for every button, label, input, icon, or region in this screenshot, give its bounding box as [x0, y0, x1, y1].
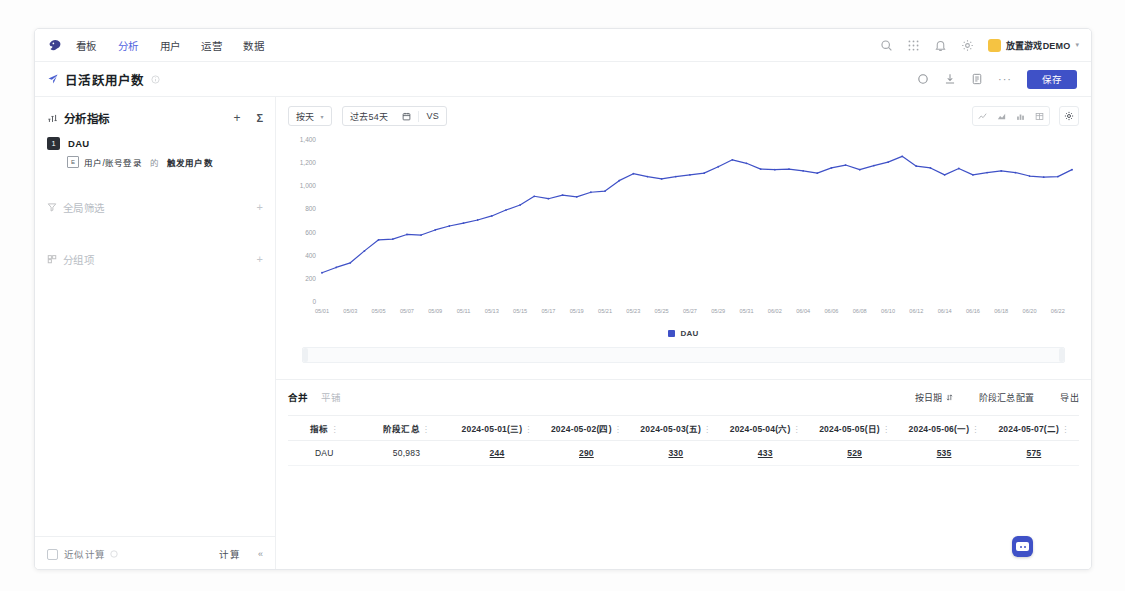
vs-compare-button[interactable]: VS — [419, 107, 446, 125]
apps-grid-icon[interactable] — [907, 39, 920, 52]
chart-data-point[interactable] — [731, 159, 733, 161]
chart-data-point[interactable] — [632, 173, 634, 175]
chart-data-point[interactable] — [349, 262, 351, 264]
cell-value-5[interactable]: 535 — [899, 441, 988, 466]
col-date-6[interactable]: 2024-05-07(二)⋮ — [989, 416, 1079, 441]
bell-icon[interactable] — [934, 39, 947, 52]
sort-handle-icon[interactable]: ⋮ — [793, 425, 801, 434]
chart-data-point[interactable] — [788, 168, 790, 170]
sum-metric-button[interactable]: Σ — [256, 113, 263, 124]
global-filter-section[interactable]: 全局筛选 + — [35, 194, 275, 220]
calculate-button[interactable]: 计算 — [219, 547, 240, 561]
chart-data-point[interactable] — [463, 222, 465, 224]
cell-value-4[interactable]: 529 — [810, 441, 899, 466]
chart-data-point[interactable] — [703, 172, 705, 174]
chart-data-point[interactable] — [519, 204, 521, 206]
refresh-icon[interactable] — [917, 73, 929, 85]
sort-by-date-button[interactable]: 按日期 — [915, 391, 953, 404]
chart-data-point[interactable] — [590, 191, 592, 193]
col-date-0[interactable]: 2024-05-01(三)⋮ — [452, 416, 541, 441]
chart-data-point[interactable] — [434, 229, 436, 231]
more-actions-icon[interactable]: ··· — [998, 75, 1012, 83]
chart-data-point[interactable] — [448, 225, 450, 227]
chart-data-point[interactable] — [944, 174, 946, 176]
add-grouping-button[interactable]: + — [257, 254, 263, 265]
chart-data-point[interactable] — [505, 209, 507, 211]
chart-data-point[interactable] — [802, 170, 804, 172]
chart-data-point[interactable] — [420, 234, 422, 236]
chart-data-point[interactable] — [406, 234, 408, 236]
chart-data-point[interactable] — [661, 178, 663, 180]
chart-data-point[interactable] — [378, 239, 380, 241]
sort-handle-icon[interactable]: ⋮ — [971, 425, 979, 434]
chart-data-point[interactable] — [576, 196, 578, 198]
chart-data-point[interactable] — [717, 166, 719, 168]
chart-data-point[interactable] — [562, 194, 564, 196]
chart-data-point[interactable] — [1057, 176, 1059, 178]
chart-data-point[interactable] — [873, 165, 875, 167]
chart-data-point[interactable] — [915, 165, 917, 167]
cell-value-1[interactable]: 290 — [542, 441, 631, 466]
chart-data-point[interactable] — [604, 190, 606, 192]
nav-item-operations[interactable]: 运营 — [201, 38, 222, 53]
chart-data-point[interactable] — [986, 172, 988, 174]
chart-data-point[interactable] — [760, 168, 762, 170]
sort-handle-icon[interactable]: ⋮ — [703, 425, 711, 434]
grouping-section[interactable]: 分组项 + — [35, 246, 275, 272]
sort-handle-icon[interactable]: ⋮ — [422, 425, 430, 434]
question-circle-icon[interactable] — [110, 550, 118, 558]
chart-type-table-button[interactable] — [1030, 107, 1049, 125]
chart-data-point[interactable] — [335, 267, 337, 269]
chart-type-bar-button[interactable] — [1011, 107, 1030, 125]
dau-line-chart[interactable]: 02004006008001,0001,2001,40005/0105/0305… — [288, 133, 1078, 323]
sort-handle-icon[interactable]: ⋮ — [330, 425, 338, 434]
info-circle-icon[interactable] — [151, 75, 160, 84]
chart-data-point[interactable] — [816, 172, 818, 174]
chart-data-point[interactable] — [392, 238, 394, 240]
cell-value-2[interactable]: 330 — [631, 441, 720, 466]
sort-handle-icon[interactable]: ⋮ — [1061, 425, 1069, 434]
col-date-2[interactable]: 2024-05-03(五)⋮ — [631, 416, 720, 441]
chart-data-point[interactable] — [364, 250, 366, 252]
chart-settings-button[interactable] — [1059, 106, 1079, 126]
approximate-calculation-checkbox[interactable] — [47, 549, 58, 560]
sort-handle-icon[interactable]: ⋮ — [882, 425, 890, 434]
sort-handle-icon[interactable]: ⋮ — [614, 425, 622, 434]
chart-data-point[interactable] — [689, 174, 691, 176]
table-tab-flat[interactable]: 平铺 — [321, 390, 342, 404]
chart-data-point[interactable] — [887, 161, 889, 163]
range-slider-track[interactable] — [308, 348, 1059, 362]
range-slider-handle-right[interactable] — [1059, 348, 1064, 362]
chart-data-point[interactable] — [1014, 172, 1016, 174]
chart-data-point[interactable] — [1000, 170, 1002, 172]
chart-data-point[interactable] — [901, 155, 903, 157]
chart-data-point[interactable] — [647, 176, 649, 178]
granularity-select[interactable]: 按天 ▾ — [288, 106, 332, 126]
date-range-button[interactable]: 过去54天 — [343, 107, 396, 125]
chart-type-area-button[interactable] — [992, 107, 1011, 125]
col-date-4[interactable]: 2024-05-05(日)⋮ — [810, 416, 899, 441]
calendar-picker-button[interactable] — [395, 107, 418, 125]
col-summary[interactable]: 阶段汇总⋮ — [361, 416, 453, 441]
chart-data-point[interactable] — [774, 169, 776, 171]
chart-data-point[interactable] — [831, 167, 833, 169]
chart-data-point[interactable] — [321, 272, 323, 274]
table-tab-merged[interactable]: 合并 — [288, 390, 309, 404]
chart-data-point[interactable] — [1043, 176, 1045, 178]
cell-value-6[interactable]: 575 — [989, 441, 1079, 466]
stage-summary-config-button[interactable]: 阶段汇总配置 — [979, 391, 1035, 404]
chart-data-point[interactable] — [491, 215, 493, 217]
chart-data-point[interactable] — [548, 198, 550, 200]
account-menu[interactable]: 放置游戏DEMO ▾ — [988, 39, 1079, 52]
chart-data-point[interactable] — [618, 180, 620, 182]
nav-item-kanban[interactable]: 看板 — [76, 38, 97, 53]
chart-data-point[interactable] — [845, 164, 847, 166]
copy-icon[interactable] — [971, 73, 983, 85]
sort-handle-icon[interactable]: ⋮ — [524, 425, 532, 434]
download-icon[interactable] — [944, 73, 956, 85]
collapse-sidebar-button[interactable]: « — [258, 549, 263, 559]
add-global-filter-button[interactable]: + — [257, 202, 263, 213]
nav-item-analysis[interactable]: 分析 — [118, 38, 139, 53]
chart-data-point[interactable] — [477, 219, 479, 221]
chart-data-point[interactable] — [972, 174, 974, 176]
